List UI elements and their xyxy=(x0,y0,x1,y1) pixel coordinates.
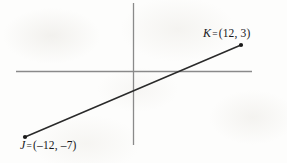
point-label-j: J=(–12, –7) xyxy=(20,138,77,153)
point-label-k-variable: K xyxy=(203,26,212,40)
coordinate-plane-figure: K=(12, 3) J=(–12, –7) xyxy=(0,0,287,163)
point-label-j-equals: = xyxy=(26,141,33,151)
point-label-k-coords: (12, 3) xyxy=(219,27,251,39)
point-label-j-coords: (–12, –7) xyxy=(33,139,77,151)
point-label-k-equals: = xyxy=(212,29,219,39)
point-marker-k xyxy=(239,43,243,47)
point-label-k: K=(12, 3) xyxy=(203,26,250,41)
